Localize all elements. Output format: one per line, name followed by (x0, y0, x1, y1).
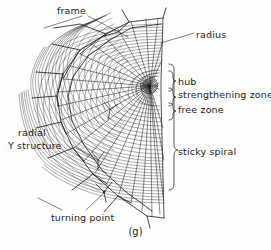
figure-caption: (g) (0, 226, 271, 237)
label-sticky-spiral: sticky spiral (178, 146, 236, 158)
label-strengthening-zone: strengthening zone (178, 89, 271, 101)
zone-braces (169, 64, 178, 190)
label-radius: radius (196, 29, 226, 41)
label-hub: hub (178, 76, 197, 88)
label-frame: frame (57, 5, 86, 17)
web-drawing (19, 8, 194, 228)
label-y-structure: Y structure (8, 140, 62, 152)
label-turning-point: turning point (51, 212, 114, 224)
frame-threads (32, 8, 166, 228)
label-radial: radial (18, 127, 46, 139)
leader-radius (161, 33, 194, 43)
leader-turning-right (86, 191, 106, 210)
spider-web-illustration (0, 0, 271, 250)
figure-container: frame radius hub strengthening zone free… (0, 0, 271, 250)
sticky-spiral-threads (19, 13, 164, 203)
label-free-zone: free zone (178, 104, 224, 116)
leader-turning-left (38, 198, 62, 210)
